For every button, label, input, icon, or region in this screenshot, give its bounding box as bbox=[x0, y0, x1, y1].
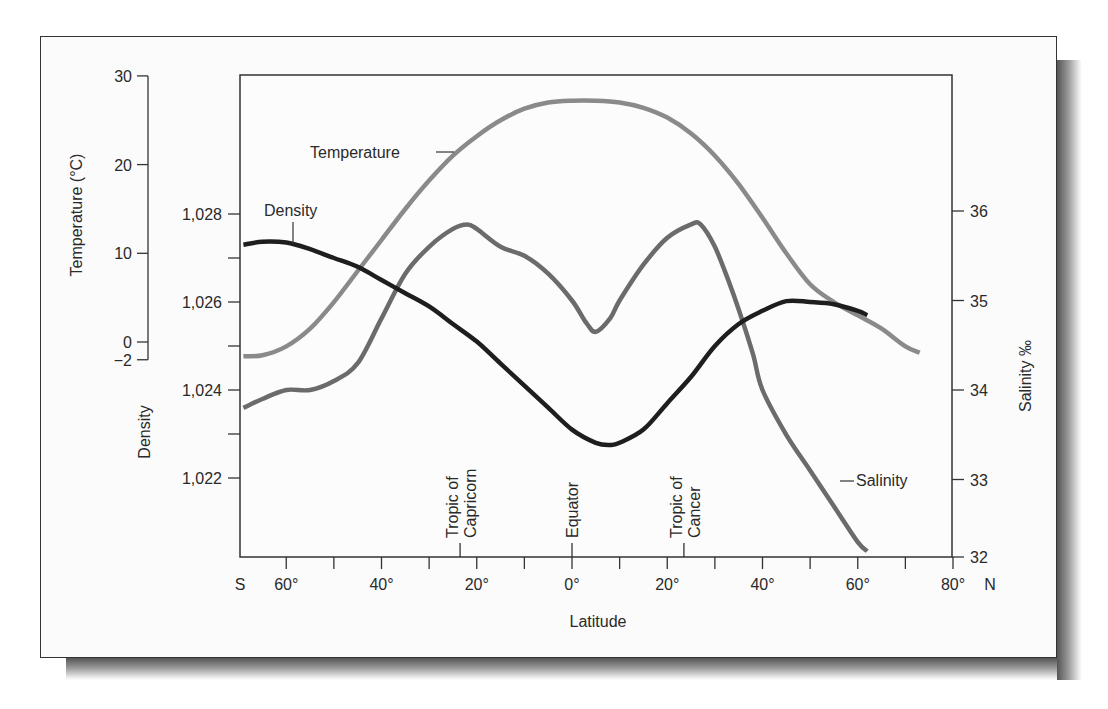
svg-text:Temperature: Temperature bbox=[310, 144, 400, 161]
x-axis-label: Latitude bbox=[570, 613, 627, 630]
x-tick-label: 0° bbox=[564, 576, 579, 593]
salinity-tick-label: 34 bbox=[970, 382, 988, 399]
temperature-tick-label: 20 bbox=[114, 157, 132, 174]
salinity-axis: 3635343332 bbox=[952, 203, 988, 566]
x-end-label-south: S bbox=[235, 576, 246, 593]
svg-text:Capricorn: Capricorn bbox=[462, 469, 479, 538]
x-tick-label: 20° bbox=[655, 576, 679, 593]
density-tick-label: 1,024 bbox=[182, 382, 222, 399]
temperature-tick-label: 10 bbox=[114, 245, 132, 262]
density-axis-label: Density bbox=[136, 405, 153, 458]
x-tick-label: 40° bbox=[750, 576, 774, 593]
salinity-tick-label: 36 bbox=[970, 203, 988, 220]
x-end-label-north: N bbox=[984, 576, 996, 593]
x-tick-label: 40° bbox=[369, 576, 393, 593]
x-tick-label: 80° bbox=[941, 576, 965, 593]
x-tick-label: 60° bbox=[846, 576, 870, 593]
svg-text:Density: Density bbox=[264, 202, 317, 219]
temperature-tick-label: −2 bbox=[114, 352, 132, 369]
density-tick-label: 1,028 bbox=[182, 206, 222, 223]
latitude-marker-label: Equator bbox=[564, 481, 581, 538]
x-tick-label: 60° bbox=[274, 576, 298, 593]
svg-text:Equator: Equator bbox=[564, 481, 581, 538]
latitude-marker-label: Tropic ofCapricorn bbox=[444, 469, 479, 538]
temperature-axis: 3020100−2 bbox=[114, 68, 148, 369]
svg-text:Tropic of: Tropic of bbox=[668, 476, 685, 538]
latitude-axis: 60°40°20°0°20°40°60°80° bbox=[274, 557, 965, 593]
svg-text:Salinity: Salinity bbox=[856, 472, 908, 489]
salinity-axis-label: Salinity ‰ bbox=[1017, 340, 1034, 412]
temperature-tick-label: 0 bbox=[123, 334, 132, 351]
density-tick-label: 1,026 bbox=[182, 294, 222, 311]
density-axis: 1,0281,0261,0241,022 bbox=[182, 206, 240, 487]
svg-text:Tropic of: Tropic of bbox=[444, 476, 461, 538]
temperature-axis-label: Temperature (°C) bbox=[68, 154, 85, 277]
salinity-tick-label: 33 bbox=[970, 472, 988, 489]
x-tick-label: 20° bbox=[465, 576, 489, 593]
chart: 3020100−2 Temperature (°C) 1,0281,0261,0… bbox=[0, 0, 1108, 709]
salinity-tick-label: 35 bbox=[970, 293, 988, 310]
temperature-tick-label: 30 bbox=[114, 68, 132, 85]
salinity-tick-label: 32 bbox=[970, 549, 988, 566]
svg-text:Cancer: Cancer bbox=[686, 486, 703, 538]
density-tick-label: 1,022 bbox=[182, 470, 222, 487]
